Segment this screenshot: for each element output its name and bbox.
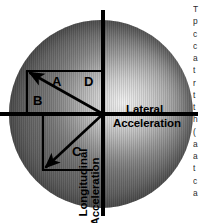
longitudinal-axis-label-line2: Acceleration xyxy=(90,158,102,223)
body-copy-line: a xyxy=(193,187,201,199)
vector-label-d: D xyxy=(84,75,93,88)
lateral-axis-label-line2: Acceleration xyxy=(113,118,181,130)
body-copy-line: t xyxy=(193,101,201,113)
longitudinal-axis-label-line1: Longitudinal xyxy=(78,149,90,217)
body-copy-line: a xyxy=(193,138,201,150)
body-copy-line: a xyxy=(193,52,201,64)
body-copy-line: h xyxy=(193,113,201,125)
body-copy-line: t xyxy=(193,162,201,174)
body-copy-column: Tpccatrtth(aatca xyxy=(193,3,201,223)
body-copy-line: c xyxy=(193,28,201,40)
body-copy-line: T xyxy=(193,3,201,15)
friction-circle-figure: A B D C Lateral Acceleration Longitudina… xyxy=(0,0,201,223)
body-copy-line: r xyxy=(193,77,201,89)
body-copy-line: c xyxy=(193,175,201,187)
body-copy-line: ( xyxy=(193,126,201,138)
vector-label-b: B xyxy=(33,94,42,107)
body-copy-line: c xyxy=(193,40,201,52)
body-copy-line: t xyxy=(193,64,201,76)
body-copy-line: a xyxy=(193,150,201,162)
vector-label-a: A xyxy=(52,75,61,88)
body-copy-line: p xyxy=(193,15,201,27)
body-copy-line: t xyxy=(193,89,201,101)
lateral-axis-label-line1: Lateral xyxy=(126,104,163,116)
